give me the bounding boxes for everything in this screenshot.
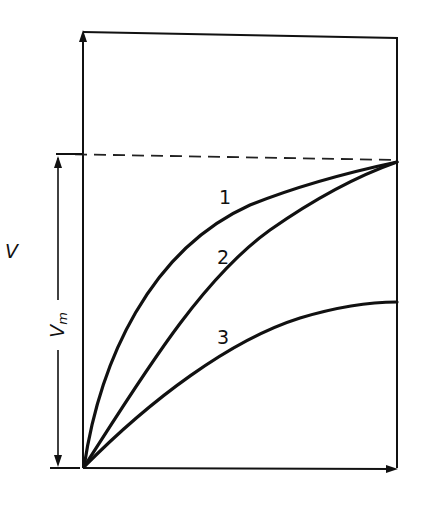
- x-axis: [83, 468, 392, 469]
- curve-3: [84, 302, 397, 467]
- curve-3-label: 3: [217, 326, 229, 348]
- svg-text:Vm: Vm: [46, 312, 70, 338]
- vmax-dashed-line: [56, 154, 397, 160]
- vm-arrow-down-icon: [54, 455, 62, 467]
- curve-1-label: 1: [219, 186, 231, 208]
- velocity-diagram: V Vm 1 2 3: [0, 0, 422, 507]
- vm-label: Vm: [46, 312, 70, 338]
- vm-arrow-up-icon: [54, 156, 62, 168]
- y-axis-label: V: [5, 240, 20, 262]
- curve-2-label: 2: [217, 246, 229, 268]
- frame-border: [83, 32, 397, 468]
